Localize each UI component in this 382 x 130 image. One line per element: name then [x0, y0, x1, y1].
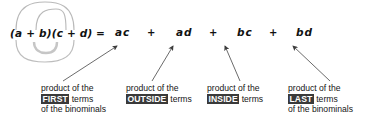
arrow-to-inside [225, 46, 240, 81]
caption-first-terms: terms [69, 94, 93, 104]
foil-diagram: (a + b)(c + d) = ac + ad + bc + bd produ… [0, 0, 382, 130]
term-last: bd [296, 26, 313, 38]
highlight-last: LAST [288, 94, 314, 104]
term-outside: ad [176, 26, 193, 38]
caption-inside-line1: product of the [207, 83, 263, 94]
binomial-expression: (a + b)(c + d) [10, 27, 93, 39]
caption-outside-line1: product of the [126, 83, 192, 94]
caption-inside-terms: terms [239, 94, 263, 104]
caption-outside: product of the OUTSIDE terms [126, 83, 192, 104]
caption-first-line2: FIRST terms [41, 94, 106, 105]
equals-sign: = [96, 27, 105, 39]
caption-first-line3: of the binominals [41, 104, 106, 115]
caption-inside: product of the INSIDE terms [207, 83, 263, 104]
highlight-first: FIRST [41, 94, 69, 104]
highlight-outside: OUTSIDE [126, 94, 168, 104]
highlight-inside: INSIDE [207, 94, 239, 104]
caption-last-line3: of the binominals [288, 104, 353, 115]
arrow-to-last [293, 46, 330, 81]
caption-last: product of the LAST terms of the binomin… [288, 83, 353, 115]
caption-first: product of the FIRST terms of the binomi… [41, 83, 106, 115]
caption-first-line1: product of the [41, 83, 106, 94]
caption-last-line2: LAST terms [288, 94, 353, 105]
caption-last-line1: product of the [288, 83, 353, 94]
term-first: ac [115, 26, 130, 38]
arrow-to-outside [152, 46, 173, 81]
arc-outer-bottom [16, 40, 74, 62]
caption-inside-line2: INSIDE terms [207, 94, 263, 105]
caption-last-terms: terms [314, 94, 338, 104]
arrow-to-first [63, 46, 117, 81]
plus-operator-3: + [269, 27, 277, 38]
arc-inner-bottom [34, 42, 57, 53]
arc-outer-top [16, 2, 74, 30]
plus-operator-2: + [209, 27, 217, 38]
term-inside: bc [237, 26, 253, 38]
plus-operator-1: + [147, 27, 155, 38]
caption-outside-line2: OUTSIDE terms [126, 94, 192, 105]
caption-outside-terms: terms [168, 94, 192, 104]
